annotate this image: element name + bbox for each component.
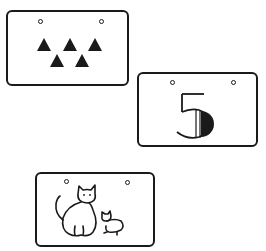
cats-card [35, 172, 155, 247]
triangles-icon [8, 12, 131, 88]
cat-and-kitten-icon [37, 174, 157, 249]
numeral-five-icon [139, 74, 260, 149]
number-card [137, 72, 258, 147]
triangles-card [6, 10, 129, 86]
